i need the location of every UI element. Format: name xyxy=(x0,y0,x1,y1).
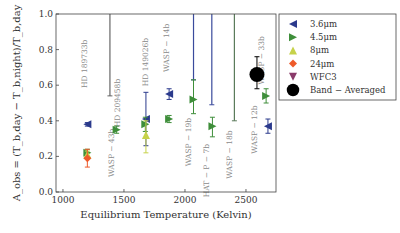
y-tick-label: 0.8 xyxy=(39,45,54,55)
x-tick-label: 1500 xyxy=(113,195,136,205)
y-tick-label: 0.2 xyxy=(39,151,53,161)
planet-label: WASP − 14b xyxy=(162,23,171,72)
legend: 3.6μm4.5μm8μm24μmWFC3Band − Averaged xyxy=(279,14,396,100)
x-tick-label: 2500 xyxy=(235,195,258,205)
planet-label: WASP − 18b xyxy=(225,130,234,179)
x-tick-label: 1000 xyxy=(52,195,75,205)
y-axis-title: A_obs = (T_b,day − T_b,night)/T_b,day xyxy=(11,4,23,202)
planet-annotations: HD 189733bWASP − 43bHD 209458bHD 149026b… xyxy=(80,23,265,197)
planet-label: HD 149026b xyxy=(141,38,150,87)
y-tick-label: 0.6 xyxy=(39,80,54,90)
legend-label: Band − Averaged xyxy=(310,85,386,95)
upper-limit-lines xyxy=(107,14,236,121)
data-point-band-averaged xyxy=(249,67,264,82)
legend-label: 3.6μm xyxy=(310,19,337,29)
legend-label: WFC3 xyxy=(310,72,337,82)
y-tick-label: 0.0 xyxy=(39,187,54,197)
planet-label: HD 189733b xyxy=(80,39,89,88)
data-point-3-6-m xyxy=(83,120,91,128)
planet-label: HD 209458b xyxy=(113,79,122,128)
planet-label: WASP − 43b xyxy=(107,128,116,177)
y-tick-label: 0.4 xyxy=(39,116,54,126)
x-axis-title: Equilibrium Temperature (Kelvin) xyxy=(80,209,251,220)
data-point-8-m xyxy=(142,131,150,139)
planet-label: WASP − 12b xyxy=(250,105,259,154)
y-tick-label: 1.0 xyxy=(39,9,54,19)
x-tick-label: 2000 xyxy=(174,195,197,205)
planet-label: HAT − P − 7b xyxy=(202,144,211,197)
chart: HD 189733bWASP − 43bHD 209458bHD 149026b… xyxy=(0,0,400,233)
legend-label: 8μm xyxy=(310,45,329,55)
planet-label: WASP − 19b xyxy=(184,118,193,167)
legend-label: 24μm xyxy=(310,59,334,69)
legend-marker-icon xyxy=(287,84,300,97)
legend-label: 4.5μm xyxy=(310,32,337,42)
x-axis-ticks: 1000150020002500 xyxy=(52,189,258,205)
